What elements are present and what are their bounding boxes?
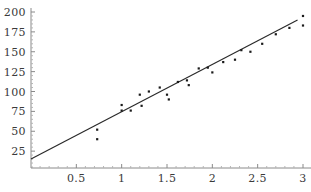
x-axis-major-ticks xyxy=(76,164,303,168)
x-axis-tick-labels: 0.511.522.53 xyxy=(67,172,307,185)
y-axis-major-ticks xyxy=(31,12,35,151)
data-point xyxy=(288,27,290,29)
x-tick-label-1.5: 1.5 xyxy=(158,172,177,185)
data-point xyxy=(211,71,213,73)
data-point xyxy=(302,15,304,17)
x-tick-label-2: 2 xyxy=(209,172,216,185)
data-point xyxy=(96,138,98,140)
y-tick-label-75: 75 xyxy=(11,105,26,118)
x-axis-group: 0.511.522.53 xyxy=(31,164,311,185)
scatter-plot-screenshot: 255075100125150175200 0.511.522.53 xyxy=(0,0,311,192)
data-point xyxy=(130,109,132,111)
data-point xyxy=(234,59,236,61)
data-point xyxy=(96,129,98,131)
data-point xyxy=(121,109,123,111)
data-point xyxy=(198,67,200,69)
data-point xyxy=(159,86,161,88)
data-point xyxy=(166,94,168,96)
data-point xyxy=(240,49,242,51)
y-tick-label-100: 100 xyxy=(4,86,26,99)
y-tick-label-25: 25 xyxy=(11,145,26,158)
data-point xyxy=(141,105,143,107)
data-point xyxy=(261,43,263,45)
data-point xyxy=(177,81,179,83)
x-tick-label-3: 3 xyxy=(299,172,306,185)
data-point xyxy=(222,61,224,63)
data-point xyxy=(168,98,170,100)
x-tick-label-0.5: 0.5 xyxy=(67,172,86,185)
y-axis-tick-labels: 255075100125150175200 xyxy=(4,6,26,158)
data-point xyxy=(302,24,304,26)
data-point-markers xyxy=(96,15,304,140)
y-tick-label-200: 200 xyxy=(4,6,26,19)
data-point xyxy=(188,84,190,86)
data-point xyxy=(249,51,251,53)
y-axis-group: 255075100125150175200 xyxy=(4,6,35,168)
data-point xyxy=(121,104,123,106)
data-point xyxy=(186,79,188,81)
fit-line-segment xyxy=(31,20,298,159)
x-tick-label-1: 1 xyxy=(118,172,125,185)
data-point xyxy=(139,94,141,96)
data-point xyxy=(207,67,209,69)
regression-fit-line xyxy=(31,20,298,159)
y-tick-label-50: 50 xyxy=(11,125,26,138)
plot-canvas: 255075100125150175200 0.511.522.53 xyxy=(0,0,311,192)
data-point xyxy=(148,90,150,92)
data-point xyxy=(275,33,277,35)
x-tick-label-2.5: 2.5 xyxy=(248,172,267,185)
y-tick-label-175: 175 xyxy=(4,26,26,39)
y-tick-label-150: 150 xyxy=(4,46,26,59)
y-tick-label-125: 125 xyxy=(4,66,26,79)
